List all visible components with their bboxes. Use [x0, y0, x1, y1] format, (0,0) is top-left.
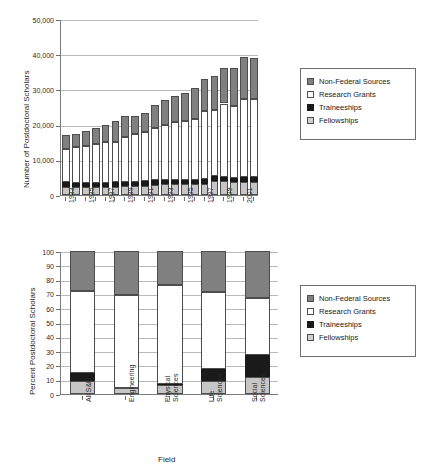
bar-segment-nonfed [220, 68, 228, 103]
bar-segment-grants [62, 149, 70, 182]
y-tick-label: 10,000 [18, 157, 54, 164]
bar-1998 [211, 19, 219, 195]
y-axis-tick [56, 196, 60, 197]
bar-1988 [112, 19, 120, 195]
y-tick-label: 50 [18, 320, 54, 327]
bar-segment-grants [131, 134, 139, 182]
bar-1984 [72, 19, 80, 195]
x-axis-tick [65, 197, 66, 201]
bar-segment-train [191, 180, 199, 185]
bar-segment-grants [171, 122, 179, 180]
bar-segment-grants [230, 106, 238, 178]
x-axis-tick [184, 197, 185, 201]
bar-segment-nonfed [102, 125, 110, 143]
legend-item-fellowships: Fellowships [307, 114, 408, 127]
bar-segment-grants [92, 144, 100, 182]
bar-segment-nonfed [191, 88, 199, 119]
bar-segment-nonfed [201, 79, 209, 111]
bar-segment-train [112, 182, 120, 186]
bar-social-sciences [245, 251, 270, 394]
bar-segment-nonfed [161, 100, 169, 125]
bar-1999 [220, 19, 228, 195]
chart-postdocs-by-field-percent: Percent Postdoctoral Scholars 0102030405… [0, 240, 428, 473]
bottom-chart-x-axis-label: Field [158, 455, 175, 464]
gridline [61, 90, 258, 91]
legend-label-fellowships: Fellowships [319, 117, 358, 125]
bar-1983 [62, 19, 70, 195]
y-tick-label: 20 [18, 363, 54, 370]
bar-segment-nonfed [240, 57, 248, 99]
bar-segment-grants [157, 285, 182, 384]
bar-segment-grants [240, 99, 248, 178]
top-chart-legend: Non-Federal Sources Research Grants Trai… [300, 68, 416, 140]
bar-segment-train [250, 177, 258, 182]
bar-segment-nonfed [121, 116, 129, 137]
bar-segment-train [211, 176, 219, 181]
legend-swatch-non-federal-sources-icon [307, 295, 314, 302]
bar-1997 [201, 19, 209, 195]
bar-segment-grants [151, 128, 159, 180]
x-axis-tick [95, 197, 96, 201]
bar-1987 [102, 19, 110, 195]
bar-segment-nonfed [114, 251, 139, 295]
bar-segment-nonfed [245, 251, 270, 298]
legend-label-research-grants: Research Grants [319, 308, 376, 316]
bar-segment-nonfed [230, 68, 238, 106]
bar-1985 [82, 19, 90, 195]
x-tick-label: SocialSciences [251, 374, 267, 402]
legend-swatch-research-grants-icon [307, 308, 314, 315]
bar-segment-grants [141, 132, 149, 181]
bar-1996 [191, 19, 199, 195]
bar-segment-nonfed [82, 131, 90, 146]
bar-segment-grants [191, 119, 199, 180]
bar-segment-train [240, 177, 248, 182]
bar-segment-grants [102, 142, 110, 182]
x-axis-tick [85, 197, 86, 201]
bar-1990 [131, 19, 139, 195]
x-axis-tick [75, 197, 76, 201]
bar-segment-train [121, 182, 129, 186]
bar-2000 [230, 19, 238, 195]
bar-segment-train [141, 181, 149, 186]
bar-life-sciences [201, 251, 226, 394]
chart-postdocs-by-year: Number of Postdoctoral Scholars 010,0002… [0, 0, 428, 232]
x-axis-tick [204, 197, 205, 201]
y-tick-label: 10 [18, 377, 54, 384]
bar-1992 [151, 19, 159, 195]
y-tick-label: 80 [18, 277, 54, 284]
x-axis-tick [253, 197, 254, 201]
y-tick-label: 90 [18, 263, 54, 270]
bar-segment-nonfed [151, 105, 159, 128]
bar-segment-train [230, 178, 238, 182]
bar-all-s-e [70, 251, 95, 394]
bar-1991 [141, 19, 149, 195]
legend-label-research-grants: Research Grants [319, 91, 376, 99]
gridline [61, 161, 258, 162]
bar-segment-nonfed [211, 76, 219, 110]
bar-segment-grants [201, 111, 209, 179]
y-tick-label: 0 [18, 193, 54, 200]
legend-item-traineeships: Traineeships [307, 318, 408, 331]
x-axis-tick [124, 197, 125, 201]
bar-segment-nonfed [70, 251, 95, 291]
x-axis-tick [134, 197, 135, 201]
x-axis-tick [243, 197, 244, 201]
bar-segment-nonfed [157, 251, 182, 285]
y-tick-label: 50,000 [18, 17, 54, 24]
y-tick-label: 20,000 [18, 122, 54, 129]
bar-1994 [171, 19, 179, 195]
x-axis-tick [82, 396, 83, 400]
x-tick-label: All S&E [85, 378, 93, 402]
legend-label-non-federal-sources: Non-Federal Sources [319, 78, 390, 86]
x-axis-tick [105, 197, 106, 201]
legend-swatch-fellowships-icon [307, 117, 314, 124]
bar-segment-train [220, 177, 228, 182]
bar-physical-sciences [157, 251, 182, 394]
legend-swatch-non-federal-sources-icon [307, 78, 314, 85]
gridline [61, 20, 258, 21]
y-tick-label: 30 [18, 349, 54, 356]
bar-segment-nonfed [141, 113, 149, 132]
legend-swatch-research-grants-icon [307, 91, 314, 98]
x-axis-tick [174, 197, 175, 201]
bar-segment-nonfed [250, 58, 258, 100]
